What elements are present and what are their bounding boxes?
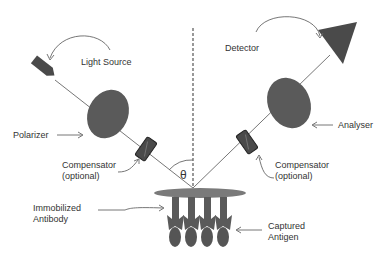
compensator-right-label: Compensator (275, 160, 329, 171)
analyser-icon (259, 71, 319, 136)
detector-pointer-arrow (256, 17, 320, 36)
compensator-right-icon (236, 130, 258, 155)
detector-label: Detector (225, 43, 259, 54)
captured-antigen-label-2: Antigen (268, 232, 299, 243)
sensor-surface (154, 188, 246, 198)
compensator-left-label: Compensator (62, 160, 116, 171)
immobilized-antibody-label-1: Immobilized (33, 203, 81, 214)
immobilized-antibody-label-2: Antibody (33, 214, 68, 225)
detector-icon (318, 22, 357, 64)
light-source-pointer-arrow (50, 36, 110, 58)
polarizer-icon (79, 83, 136, 145)
captured-antigen-label-1: Captured (268, 221, 305, 232)
light-source-icon (31, 55, 58, 79)
antibody-antigen-array (167, 197, 232, 247)
light-source-label: Light Source (81, 57, 132, 68)
polarizer-label: Polarizer (13, 130, 49, 141)
compensator-right-optional-label: (optional) (275, 171, 313, 182)
analyser-label: Analyser (338, 120, 373, 131)
compensator-left-optional-label: (optional) (62, 171, 100, 182)
theta-angle-label: θ (180, 170, 187, 181)
